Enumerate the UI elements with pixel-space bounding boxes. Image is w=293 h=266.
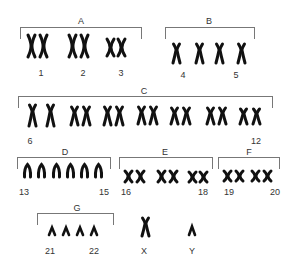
group-label-c: C — [134, 86, 154, 96]
group-label-f: F — [239, 147, 259, 157]
group-bracket-g — [37, 213, 114, 225]
chromosome-icon — [223, 171, 232, 181]
chromosome-icon — [80, 164, 89, 177]
sex-chromosome-x-icon — [141, 218, 150, 236]
chromosome-number: 6 — [27, 136, 32, 146]
chromosome-number: 12 — [251, 136, 261, 146]
chromosome-icon — [169, 171, 178, 182]
sex-chromosome-label-y: Y — [189, 246, 195, 256]
chromosome-icon — [137, 107, 146, 124]
chromosome-icon — [239, 109, 248, 124]
chromosome-icon — [46, 105, 55, 126]
chromosome-icon — [157, 171, 166, 182]
chromosome-icon — [170, 108, 179, 124]
group-label-b: B — [199, 16, 219, 26]
chromosome-icon — [68, 35, 77, 57]
chromosome-icon — [28, 105, 37, 126]
chromosome-icon — [235, 171, 244, 181]
chromosome-icon — [90, 227, 98, 235]
chromosome-icon — [37, 164, 46, 177]
chromosome-number: 13 — [19, 187, 29, 197]
chromosome-icon — [52, 164, 61, 177]
chromosome-icon — [70, 107, 79, 125]
group-label-g: G — [67, 203, 87, 213]
chromosome-number: 3 — [118, 68, 123, 78]
chromosome-number: 22 — [89, 246, 99, 256]
chromosome-icon — [106, 39, 115, 56]
group-bracket-c — [18, 96, 273, 108]
group-label-d: D — [55, 147, 75, 157]
chromosome-number: 5 — [233, 70, 238, 80]
chromosome-icon — [66, 164, 75, 177]
chromosome-icon — [94, 164, 103, 177]
chromosome-icon — [182, 108, 191, 124]
chromosome-icon — [172, 44, 181, 63]
chromosome-number: 2 — [80, 68, 85, 78]
chromosome-number: 4 — [180, 70, 185, 80]
chromosome-number: 18 — [198, 187, 208, 197]
chromosome-icon — [115, 107, 124, 125]
chromosome-icon — [80, 35, 89, 57]
chromosome-icon — [215, 44, 224, 63]
chromosome-icon — [149, 107, 158, 124]
chromosome-number: 20 — [270, 187, 280, 197]
chromosome-number: 1 — [38, 68, 43, 78]
chromosome-icon — [199, 172, 208, 182]
chromosome-icon — [117, 39, 126, 56]
chromosome-icon — [82, 107, 91, 125]
chromosome-icon — [39, 35, 48, 57]
sex-chromosome-label-x: X — [141, 246, 147, 256]
chromosome-number: 21 — [45, 246, 55, 256]
chromosome-icon — [195, 44, 204, 63]
group-bracket-f — [218, 157, 280, 169]
chromosome-icon — [251, 171, 260, 181]
chromosome-icon — [48, 227, 56, 235]
chromosome-number: 19 — [224, 187, 234, 197]
chromosome-icon — [252, 109, 261, 124]
chromosome-icon — [263, 171, 272, 181]
chromosome-icon — [237, 44, 246, 63]
group-bracket-e — [119, 157, 213, 169]
chromosome-icon — [188, 172, 197, 182]
chromosome-number: 15 — [99, 187, 109, 197]
chromosome-number: 16 — [121, 187, 131, 197]
group-label-e: E — [155, 147, 175, 157]
chromosome-icon — [27, 35, 36, 57]
chromosome-icon — [62, 227, 70, 235]
chromosome-icon — [218, 108, 227, 124]
chromosome-icon — [206, 108, 215, 124]
sex-chromosome-y-icon — [188, 226, 196, 235]
chromosome-icon — [136, 171, 145, 182]
group-bracket-b — [165, 27, 255, 39]
chromosome-icon — [76, 227, 84, 235]
chromosome-icon — [103, 107, 112, 125]
chromosome-icon — [124, 171, 133, 182]
chromosome-icon — [23, 164, 32, 177]
karyotype-diagram: A123B45C612D1315E1618F1920G2122XY — [0, 0, 293, 266]
group-label-a: A — [71, 16, 91, 26]
